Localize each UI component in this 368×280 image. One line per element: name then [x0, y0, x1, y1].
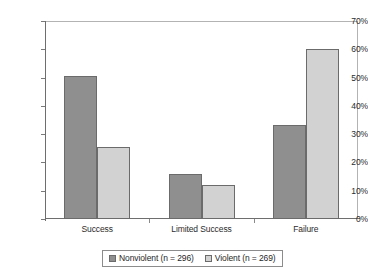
bar [202, 185, 235, 219]
legend-swatch-icon [109, 255, 116, 262]
bar [64, 76, 97, 219]
x-axis-category-label: Limited Success [149, 224, 253, 234]
y-axis-tick-mark [41, 219, 45, 220]
legend-label: Nonviolent (n = 296) [119, 254, 194, 263]
x-axis-separator [149, 219, 150, 223]
x-axis-category-label: Success [45, 224, 149, 234]
bar [273, 125, 306, 219]
legend-entry: Nonviolent (n = 296) [109, 254, 194, 263]
bar [306, 49, 339, 219]
bar [169, 174, 202, 219]
legend-entry: Violent (n = 269) [205, 254, 276, 263]
bar-chart: 0%10%20%30%40%50%60%70% SuccessLimited S… [0, 0, 368, 280]
x-axis-separator [254, 219, 255, 223]
bars-group [45, 21, 358, 219]
x-axis-category-label: Failure [254, 224, 358, 234]
bar [97, 147, 130, 219]
chart-legend: Nonviolent (n = 296)Violent (n = 269) [102, 250, 283, 267]
legend-swatch-icon [205, 255, 212, 262]
legend-label: Violent (n = 269) [215, 254, 276, 263]
